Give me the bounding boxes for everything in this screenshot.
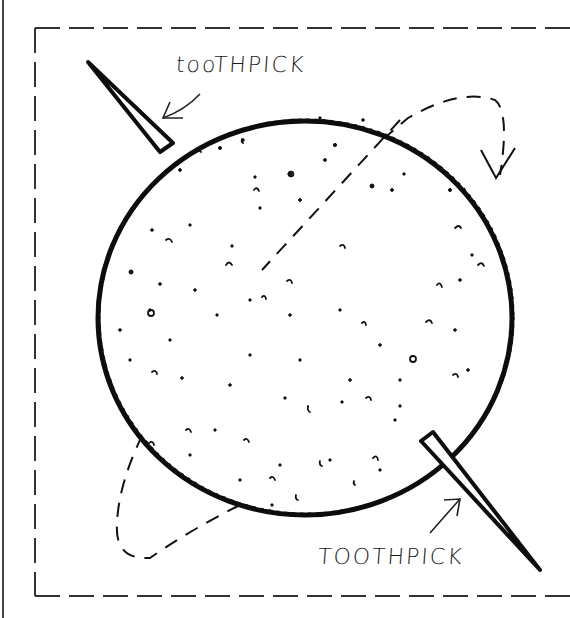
toothpick-label-top: tooTHPICK — [175, 52, 306, 77]
toothpick-label-bottom: TOOTHPICK — [317, 544, 464, 569]
illustration-canvas — [0, 0, 570, 618]
label-pointer-bottom — [430, 499, 460, 533]
label-pointer-top — [163, 94, 200, 118]
toothpick-top-left — [88, 62, 173, 152]
arrowhead-down-icon — [481, 148, 515, 178]
